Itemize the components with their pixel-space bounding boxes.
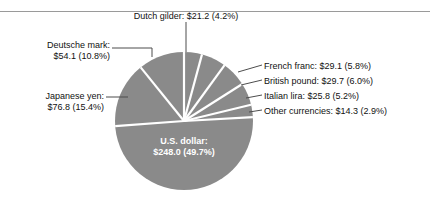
slice-label-us-dollar-line1: U.S. dollar: [134, 136, 234, 147]
slice-label-italian-lira: Italian lira: $25.8 (5.2%) [264, 91, 359, 102]
slice-label-british-pound: British pound: $29.7 (6.0%) [264, 76, 373, 87]
slice-label-deutsche-mark-line1: Deutsche mark: [6, 40, 110, 51]
slice-label-deutsche-mark-line2: $54.1 (10.8%) [6, 51, 110, 62]
slice-label-japanese-yen-line2: $76.8 (15.4%) [6, 102, 104, 113]
slice-label-deutsche-mark: Deutsche mark: $54.1 (10.8%) [6, 40, 110, 62]
pie-slices [115, 52, 253, 190]
leader-deutsche-mark [112, 48, 152, 57]
pie-chart-figure: Dutch gilder: $21.2 (4.2%) Deutsche mark… [0, 0, 430, 198]
slice-label-us-dollar: U.S. dollar: $248.0 (49.7%) [134, 136, 234, 158]
leader-british-pound [241, 80, 262, 85]
slice-label-japanese-yen: Japanese yen: $76.8 (15.4%) [6, 91, 104, 113]
slice-label-dutch-gilder: Dutch gilder: $21.2 (4.2%) [118, 11, 254, 22]
slice-label-french-franc: French franc: $29.1 (5.8%) [264, 61, 371, 72]
slice-label-japanese-yen-line1: Japanese yen: [6, 91, 104, 102]
slice-label-us-dollar-line2: $248.0 (49.7%) [134, 147, 234, 158]
leader-french-franc [238, 65, 262, 72]
slice-label-other-currencies: Other currencies: $14.3 (2.9%) [264, 106, 387, 117]
